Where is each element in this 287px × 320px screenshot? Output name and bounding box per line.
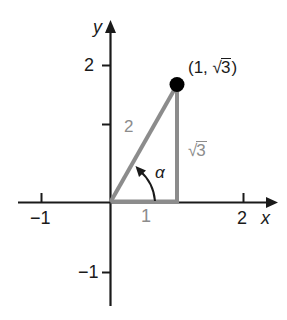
triangle-hypotenuse <box>111 85 178 202</box>
y-tick-label-2: 2 <box>84 56 94 74</box>
point-label-suffix: ) <box>231 58 237 77</box>
coordinate-plane-graphic <box>0 0 287 320</box>
x-tick-label-1: 1 <box>141 207 151 225</box>
x-axis-arrow-icon <box>266 197 278 208</box>
point-label-radicand: 3 <box>221 58 231 76</box>
y-axis <box>102 20 116 306</box>
x-axis-label: x <box>261 209 270 227</box>
hypotenuse-length-label: 2 <box>124 118 133 135</box>
point-label-prefix: (1, <box>188 58 213 77</box>
vertical-leg-length-label: √3 <box>188 141 207 159</box>
angle-label-alpha: α <box>155 164 165 181</box>
right-triangle <box>111 85 178 203</box>
x-tick-label-2: 2 <box>237 209 247 227</box>
point-label: (1, √3) <box>188 58 237 76</box>
angle-arc <box>136 166 156 201</box>
plotted-point-dot <box>170 77 185 92</box>
sqrt-icon: √3 <box>188 141 207 159</box>
y-tick-label-minus1: −1 <box>78 263 99 281</box>
figure-canvas: y x 2 −1 −1 1 2 (1, √3) 2 √3 α <box>0 0 287 320</box>
y-axis-label: y <box>93 18 102 36</box>
x-tick-label-minus1: −1 <box>30 209 51 227</box>
vertical-leg-radicand: 3 <box>196 141 206 159</box>
sqrt-icon: √3 <box>213 58 232 76</box>
y-axis-arrow-icon <box>105 20 116 33</box>
